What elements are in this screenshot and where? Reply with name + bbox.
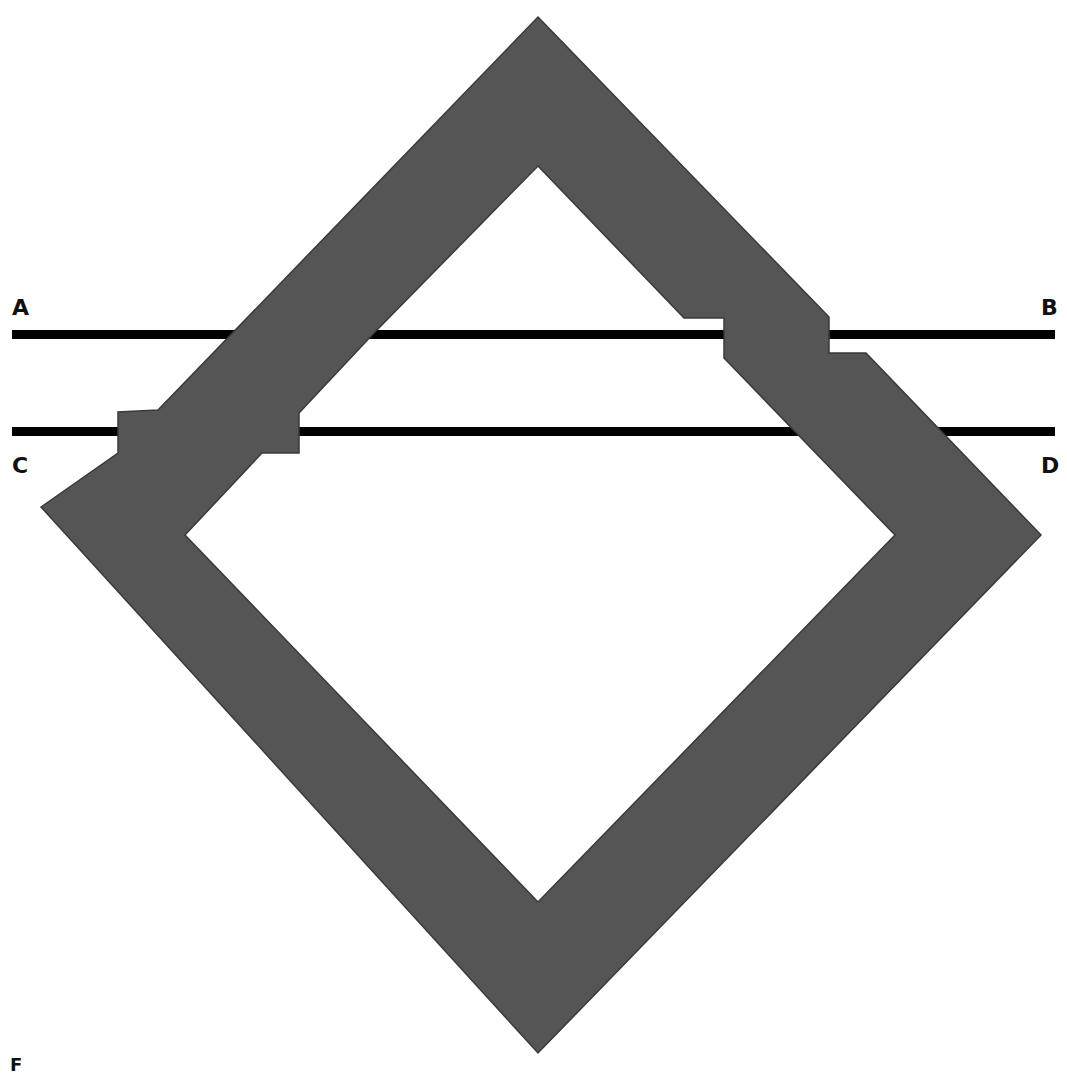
label-b: B	[1041, 297, 1058, 319]
label-a: A	[12, 297, 29, 319]
line-ab	[12, 330, 1055, 339]
diamond-band	[41, 17, 1041, 1053]
label-d: D	[1041, 455, 1059, 477]
figure-caption: F	[10, 1056, 22, 1074]
label-c: C	[12, 455, 28, 477]
